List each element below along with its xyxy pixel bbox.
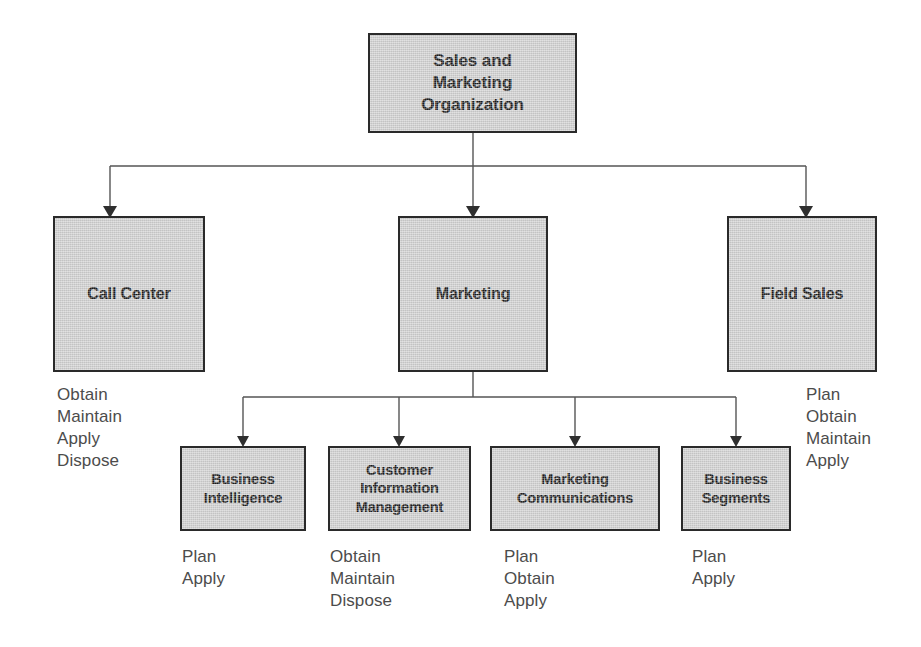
node-marketing-communications[interactable]: Marketing Communications — [490, 446, 660, 531]
verb-list-business-segments: Plan Apply — [692, 546, 735, 590]
node-field-sales[interactable]: Field Sales — [727, 216, 877, 372]
node-sales-and-marketing-organization[interactable]: Sales and Marketing Organization — [368, 33, 577, 133]
org-chart-diagram: Sales and Marketing Organization Call Ce… — [0, 0, 921, 647]
node-business-intelligence[interactable]: Business Intelligence — [180, 446, 306, 531]
node-call-center[interactable]: Call Center — [53, 216, 205, 372]
verb-list-marketing-communications: Plan Obtain Apply — [504, 546, 555, 612]
verb-list-customer-information-management: Obtain Maintain Dispose — [330, 546, 395, 612]
node-label: Marketing Communications — [513, 470, 637, 507]
node-label: Business Intelligence — [200, 470, 287, 507]
node-label: Field Sales — [757, 284, 848, 304]
node-label: Sales and Marketing Organization — [417, 50, 528, 115]
verb-list-call-center: Obtain Maintain Apply Dispose — [57, 384, 122, 472]
node-label: Business Segments — [698, 470, 775, 507]
verb-list-field-sales: Plan Obtain Maintain Apply — [806, 384, 871, 472]
node-label: Call Center — [83, 284, 174, 304]
verb-list-business-intelligence: Plan Apply — [182, 546, 225, 590]
node-label: Customer Information Management — [352, 461, 448, 517]
node-label: Marketing — [432, 284, 515, 304]
node-customer-information-management[interactable]: Customer Information Management — [328, 446, 471, 531]
node-business-segments[interactable]: Business Segments — [681, 446, 791, 531]
node-marketing[interactable]: Marketing — [398, 216, 548, 372]
